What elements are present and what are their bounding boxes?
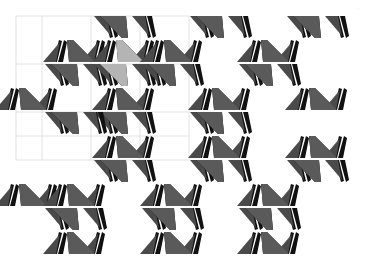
tessellation-figure: · — [0, 0, 375, 272]
corner-mark: · — [357, 5, 359, 11]
